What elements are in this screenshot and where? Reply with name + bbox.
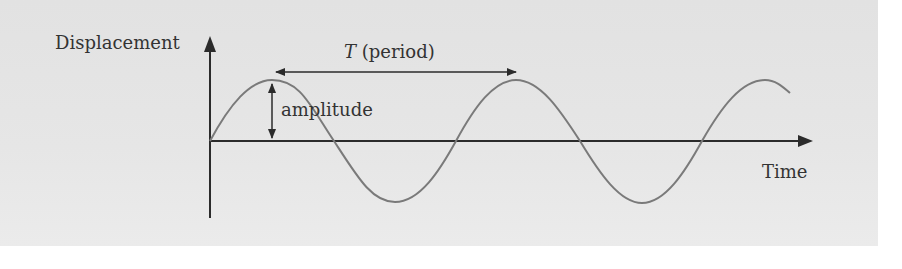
y-axis [204, 36, 216, 218]
y-axis-label: Displacement [55, 32, 180, 53]
period-label: T (period) [344, 41, 435, 62]
wave-diagram: Displacement Time T (period) amplitude [0, 0, 902, 269]
x-axis-arrow-icon [798, 135, 813, 147]
amplitude-label: amplitude [281, 99, 373, 120]
x-axis-label: Time [762, 161, 807, 182]
x-axis [210, 135, 813, 147]
period-text: (period) [356, 41, 435, 62]
y-axis-arrow-icon [204, 36, 216, 52]
